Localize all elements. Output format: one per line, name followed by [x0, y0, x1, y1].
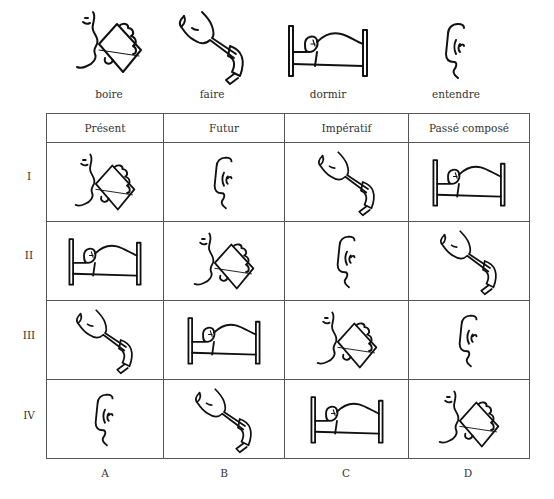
legend-item-entendre: entendre — [401, 6, 511, 106]
table-row — [47, 222, 530, 301]
grid-cell — [47, 222, 164, 301]
column-label: A — [95, 467, 115, 479]
bed-icon — [285, 14, 371, 86]
hammer-icon — [70, 305, 140, 375]
hammer-icon — [172, 6, 252, 86]
legend-label: dormir — [273, 88, 383, 100]
table-row — [47, 143, 530, 222]
bed-icon — [428, 151, 510, 213]
header-futur: Futur — [164, 114, 285, 143]
grid-cell — [47, 143, 164, 222]
legend-item-faire: faire — [157, 6, 267, 106]
drinking-icon — [72, 149, 138, 215]
drinking-icon — [73, 6, 145, 78]
grid-cell — [47, 301, 164, 380]
hammer-icon — [189, 384, 259, 454]
drinking-icon — [191, 228, 257, 294]
grid-cell — [47, 380, 164, 459]
table-row — [47, 380, 530, 459]
header-imperatif: Impératif — [285, 114, 409, 143]
legend-label: boire — [54, 88, 164, 100]
grid-cell — [409, 380, 530, 459]
ear-icon — [455, 310, 483, 370]
grid-cell — [164, 380, 285, 459]
grid-cell — [164, 222, 285, 301]
header-passe-compose: Passé composé — [409, 114, 530, 143]
conjugation-grid: Présent Futur Impératif Passé composé — [46, 113, 530, 459]
grid-cell — [164, 143, 285, 222]
column-label: C — [336, 467, 356, 479]
header-present: Présent — [47, 114, 164, 143]
ear-icon — [333, 231, 361, 291]
bed-icon — [306, 388, 388, 450]
grid-cell — [285, 222, 409, 301]
legend-label: entendre — [401, 88, 511, 100]
grid-cell — [409, 222, 530, 301]
column-label: D — [458, 467, 478, 479]
grid-cell — [409, 301, 530, 380]
row-label: I — [14, 170, 44, 182]
grid-cell — [409, 143, 530, 222]
bed-icon — [64, 230, 146, 292]
hammer-icon — [312, 147, 382, 217]
hammer-icon — [434, 226, 504, 296]
row-label: II — [14, 249, 44, 261]
column-label: B — [214, 467, 234, 479]
grid-cell — [164, 301, 285, 380]
grid-cell — [285, 380, 409, 459]
ear-icon — [441, 18, 471, 82]
grid-cell — [285, 301, 409, 380]
bed-icon — [183, 309, 265, 371]
legend-item-boire: boire — [54, 6, 164, 106]
header-row: Présent Futur Impératif Passé composé — [47, 114, 530, 143]
drinking-icon — [436, 386, 502, 452]
table-row — [47, 301, 530, 380]
row-label: IV — [14, 409, 44, 421]
ear-icon — [91, 389, 119, 449]
legend-label: faire — [157, 88, 267, 100]
drinking-icon — [314, 307, 380, 373]
row-label: III — [14, 329, 44, 341]
ear-icon — [210, 152, 238, 212]
legend-item-dormir: dormir — [273, 6, 383, 106]
grid-cell — [285, 143, 409, 222]
